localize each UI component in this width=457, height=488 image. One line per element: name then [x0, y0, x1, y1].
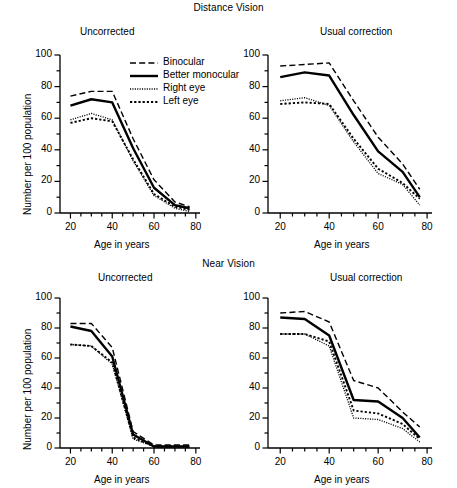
panel-title-distance-usual-correction: Usual correction [320, 26, 392, 37]
series-line-binocular [280, 63, 420, 189]
series-line-better-monocular [280, 318, 420, 438]
series-line-left-eye [280, 334, 420, 439]
y-tick-label: 60 [230, 111, 260, 122]
x-tick-label: 60 [363, 456, 393, 467]
series-line-binocular [280, 312, 420, 428]
series-line-right-eye [70, 113, 189, 211]
series-line-binocular [70, 91, 189, 206]
x-tick-label: 20 [265, 221, 295, 232]
y-tick-label: 0 [230, 441, 260, 452]
x-tick-label: 40 [314, 221, 344, 232]
y-tick-label: 20 [230, 174, 260, 185]
x-tick-label: 80 [181, 221, 211, 232]
y-tick-label: 100 [230, 291, 260, 302]
x-axis-title: Age in years [94, 474, 150, 485]
panel-title-distance-uncorrected: Uncorrected [80, 26, 134, 37]
figure-canvas: Distance Vision Near Vision 020406080100… [0, 0, 457, 488]
y-tick-label: 0 [230, 206, 260, 217]
series-line-better-monocular [280, 72, 420, 197]
legend-label-left-eye: Left eye [163, 95, 199, 106]
series-line-left-eye [70, 345, 189, 447]
x-tick-label: 20 [55, 456, 85, 467]
panel-title-near-uncorrected: Uncorrected [98, 272, 152, 283]
series-line-left-eye [280, 102, 420, 198]
x-tick-label: 80 [412, 456, 442, 467]
y-tick-label: 100 [22, 291, 52, 302]
x-tick-label: 20 [265, 456, 295, 467]
chart-near-uncorrected [55, 298, 201, 454]
x-tick-label: 80 [412, 221, 442, 232]
x-axis-title: Age in years [94, 239, 150, 250]
x-tick-label: 40 [97, 456, 127, 467]
y-tick-label: 100 [22, 48, 52, 59]
y-axis-title: Number per 100 population [22, 329, 33, 450]
y-axis-title: Number per 100 population [22, 94, 33, 215]
legend-label-binocular: Binocular [163, 56, 205, 67]
y-tick-label: 20 [230, 411, 260, 422]
series-line-right-eye [280, 98, 420, 205]
legend-label-better-monocular: Better monocular [163, 69, 239, 80]
x-tick-label: 40 [314, 456, 344, 467]
y-tick-label: 80 [22, 80, 52, 91]
chart-distance-usual-correction [263, 55, 433, 219]
legend-label-right-eye: Right eye [163, 82, 205, 93]
x-tick-label: 60 [139, 221, 169, 232]
x-tick-label: 40 [97, 221, 127, 232]
y-tick-label: 40 [230, 143, 260, 154]
x-tick-label: 80 [181, 456, 211, 467]
y-tick-label: 80 [230, 321, 260, 332]
x-axis-title: Age in years [314, 474, 370, 485]
y-tick-label: 100 [230, 48, 260, 59]
chart-near-usual-correction [263, 298, 433, 454]
x-tick-label: 20 [55, 221, 85, 232]
x-tick-label: 60 [139, 456, 169, 467]
x-tick-label: 60 [363, 221, 393, 232]
y-tick-label: 40 [230, 381, 260, 392]
y-tick-label: 60 [230, 351, 260, 362]
y-tick-label: 80 [230, 80, 260, 91]
panel-title-near-usual-correction: Usual correction [330, 272, 402, 283]
series-line-right-eye [70, 345, 189, 447]
x-axis-title: Age in years [314, 239, 370, 250]
